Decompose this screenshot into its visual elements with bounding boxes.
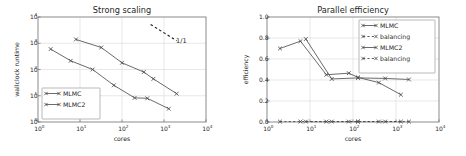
- svg-text:1: 1: [314, 124, 317, 129]
- xtick-label-3: 103: [392, 124, 403, 132]
- reference-slope-line: [151, 24, 177, 40]
- ytick-label-1: 101: [30, 91, 38, 99]
- strong-scaling-legend: MLMCMLMC2: [42, 88, 100, 119]
- parallel-efficiency-legend: MLMCbalancingMLMC2balancing: [359, 20, 435, 73]
- ytick-label-0: 0.0: [259, 118, 269, 125]
- svg-text:0: 0: [42, 124, 45, 129]
- svg-text:1: 1: [34, 91, 37, 96]
- ytick-label-1: 0.2: [259, 97, 269, 104]
- data-point-marker: [399, 93, 403, 97]
- ytick-label-2: 102: [30, 65, 38, 73]
- chart-panel-strong-scaling: Strong scaling10010110210310410010110210…: [0, 0, 233, 156]
- legend-label-0: MLMC: [380, 22, 398, 29]
- legend-label-1: MLMC2: [63, 101, 85, 108]
- parallel-efficiency-chart: Parallel efficiency1001011021031040.00.2…: [233, 0, 466, 156]
- ytick-label-0: 100: [30, 117, 38, 125]
- xtick-label-4: 104: [202, 124, 213, 132]
- legend-label-0: MLMC: [63, 90, 81, 97]
- svg-text:3: 3: [400, 124, 403, 129]
- ytick-label-5: 1.0: [259, 13, 269, 20]
- data-point-marker: [112, 83, 116, 87]
- legend-label-2: MLMC2: [380, 44, 402, 51]
- ytick-label-2: 0.4: [259, 76, 269, 83]
- svg-text:3: 3: [168, 124, 171, 129]
- svg-text:4: 4: [443, 124, 446, 129]
- parallel-efficiency-ylabel: efficiency: [242, 54, 250, 84]
- strong-scaling-ylabel: wallclock runtime: [13, 42, 20, 97]
- xtick-label-1: 101: [76, 124, 87, 132]
- data-point-marker: [175, 92, 179, 96]
- data-point-marker: [69, 59, 73, 63]
- data-point-marker: [167, 107, 171, 111]
- strong-scaling-xlabel: cores: [114, 135, 131, 142]
- svg-text:0: 0: [271, 124, 274, 129]
- svg-text:3: 3: [34, 38, 37, 43]
- parallel-efficiency-xlabel: cores: [345, 135, 362, 142]
- annotation-label: 1/1: [176, 37, 187, 45]
- xtick-label-4: 104: [435, 124, 446, 132]
- xtick-label-2: 102: [118, 124, 129, 132]
- strong-scaling-annotation-0: 1/1: [151, 24, 187, 44]
- svg-text:2: 2: [126, 124, 129, 129]
- chart-panel-parallel-efficiency: Parallel efficiency1001011021031040.00.2…: [233, 0, 466, 156]
- series-1-mlmc2: [74, 38, 179, 96]
- parallel-efficiency-title: Parallel efficiency: [317, 5, 389, 15]
- ytick-label-4: 0.8: [259, 34, 269, 41]
- svg-text:2: 2: [357, 124, 360, 129]
- ytick-label-4: 104: [30, 12, 38, 20]
- strong-scaling-title: Strong scaling: [93, 5, 151, 15]
- figure-container: Strong scaling10010110210310410010110210…: [0, 0, 466, 156]
- svg-text:4: 4: [34, 12, 37, 17]
- svg-text:2: 2: [34, 65, 37, 70]
- xtick-label-3: 103: [160, 124, 171, 132]
- ytick-label-3: 103: [30, 38, 38, 46]
- xtick-label-2: 102: [349, 124, 360, 132]
- svg-text:0: 0: [34, 117, 37, 122]
- xtick-label-1: 101: [306, 124, 317, 132]
- svg-text:1: 1: [84, 124, 87, 129]
- data-point-marker: [142, 70, 146, 74]
- legend-label-3: balancing: [380, 55, 410, 63]
- data-point-marker: [49, 47, 53, 51]
- data-point-marker: [152, 77, 156, 81]
- legend-label-1: balancing: [380, 33, 410, 41]
- svg-text:4: 4: [210, 124, 213, 129]
- series-path: [76, 39, 177, 93]
- strong-scaling-chart: Strong scaling10010110210310410010110210…: [0, 0, 233, 156]
- ytick-label-3: 0.6: [259, 55, 269, 62]
